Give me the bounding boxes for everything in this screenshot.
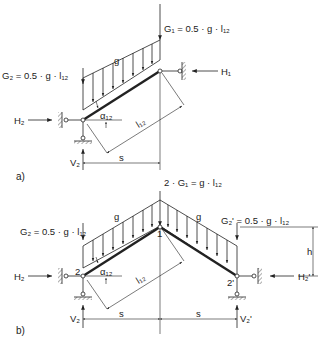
load-arrows-a xyxy=(93,44,152,102)
label-height-b: h xyxy=(307,247,312,257)
tag-a: a) xyxy=(16,172,25,182)
label-h2p-b: H₂' xyxy=(298,272,310,282)
label-g2-b: G₂ = 0.5 · g · l₁₂ xyxy=(20,227,86,237)
label-load-a: g xyxy=(114,56,119,66)
label-node-2-b: 2 xyxy=(75,267,80,277)
label-g2p-b: G₂' = 0.5 · g · l₁₂ xyxy=(221,216,289,226)
beam-left-b xyxy=(83,227,160,276)
label-alpha-a: α₁₂ xyxy=(100,111,112,121)
node-2p-b xyxy=(235,274,239,278)
label-g1-a: G₁ = 0.5 · g · l₁₂ xyxy=(164,24,230,34)
node-2-a xyxy=(81,118,85,122)
label-load-right-b: g xyxy=(196,212,201,222)
label-node-1-b: 1 xyxy=(157,229,162,239)
label-g2-a: G₂ = 0.5 · g · l₁₂ xyxy=(2,71,68,81)
label-h2-a: H₂ xyxy=(14,116,25,126)
label-alpha-b: α₁₂ xyxy=(100,267,112,277)
label-span-left-b: s xyxy=(119,309,124,319)
label-v2p-b: V₂' xyxy=(240,314,252,324)
label-v2-a: V₂ xyxy=(70,158,80,168)
label-center-load-b: 2 · G₁ = g · l₁₂ xyxy=(164,178,222,188)
structural-diagram xyxy=(0,0,334,338)
label-v2-b: V₂ xyxy=(70,314,80,324)
label-h2-b: H₂ xyxy=(14,272,25,282)
label-span-a: s xyxy=(119,153,124,163)
label-load-left-b: g xyxy=(114,212,119,222)
label-span-right-b: s xyxy=(196,309,201,319)
label-node-2p-b: 2' xyxy=(227,278,234,288)
node-2-b xyxy=(81,274,85,278)
load-block-a xyxy=(83,40,160,110)
label-h1-a: H₁ xyxy=(221,67,231,77)
node-1-a xyxy=(158,69,162,73)
tag-b: b) xyxy=(16,326,25,336)
beam-a xyxy=(83,71,160,120)
